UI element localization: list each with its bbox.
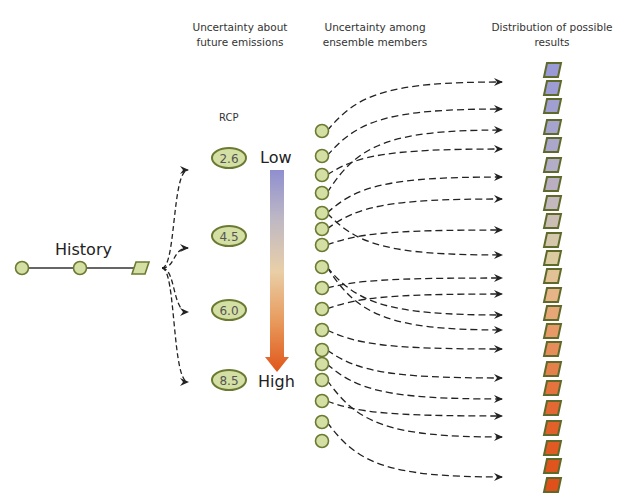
ensemble-member-node	[316, 187, 329, 200]
ensemble-member-node	[316, 358, 329, 371]
ensemble-arrow	[327, 109, 502, 156]
ensemble-member-node	[316, 169, 329, 182]
ensemble-arrow	[327, 267, 502, 330]
result-item	[544, 459, 561, 473]
ensemble-arrow	[327, 82, 502, 131]
result-item	[544, 342, 561, 356]
ensemble-arrow	[327, 213, 502, 255]
ensemble-arrow	[327, 267, 502, 315]
result-item	[544, 120, 561, 134]
result-item	[544, 401, 561, 415]
ensemble-arrow	[327, 422, 502, 477]
result-item	[544, 269, 561, 283]
result-item	[544, 362, 561, 376]
svg-text:2.6: 2.6	[219, 152, 238, 166]
result-item	[544, 324, 561, 338]
ensemble-member-node	[316, 125, 329, 138]
ensemble-arrow	[327, 177, 502, 213]
scenario-branch-arrow	[162, 170, 188, 268]
result-item	[544, 138, 561, 152]
result-item	[544, 214, 561, 228]
scenario-branch-arrow	[162, 268, 188, 382]
result-item	[544, 196, 561, 210]
result-item	[544, 81, 561, 95]
uncertainty-diagram: 2.64.56.08.5	[0, 0, 629, 504]
emission-scale-arrow	[265, 170, 289, 372]
ensemble-member-node	[316, 239, 329, 252]
result-item	[544, 99, 561, 113]
ensemble-member-node	[316, 303, 329, 316]
ensemble-member-node	[316, 395, 329, 408]
ensemble-arrow	[327, 330, 502, 349]
result-item	[544, 251, 561, 265]
ensemble-arrow	[327, 130, 502, 193]
ensemble-member-node	[316, 282, 329, 295]
svg-text:6.0: 6.0	[219, 304, 238, 318]
history-timeline	[16, 262, 150, 275]
result-item	[544, 288, 561, 302]
ensemble-arrow	[327, 350, 502, 378]
result-item	[544, 306, 561, 320]
ensemble-member-node	[316, 150, 329, 163]
result-item	[544, 478, 561, 492]
result-item	[544, 177, 561, 191]
ensemble-member-node	[316, 374, 329, 387]
ensemble-arrow	[327, 199, 502, 229]
result-item	[544, 421, 561, 435]
rcp-scenario-8.5: 8.5	[212, 370, 246, 390]
ensemble-arrow	[327, 364, 502, 399]
ensemble-arrow	[327, 380, 502, 437]
history-node	[16, 262, 29, 275]
ensemble-member-node	[316, 416, 329, 429]
result-item	[544, 63, 561, 77]
scenario-branch-arrow	[162, 268, 188, 312]
ensemble-arrows	[327, 82, 502, 477]
ensemble-member-node	[316, 223, 329, 236]
ensemble-arrow	[327, 294, 502, 309]
rcp-scenario-6.0: 6.0	[212, 300, 246, 320]
ensemble-member-node	[316, 324, 329, 337]
ensemble-member-node	[316, 344, 329, 357]
ensemble-arrow	[327, 230, 502, 245]
svg-text:8.5: 8.5	[219, 374, 238, 388]
result-item	[544, 158, 561, 172]
result-distribution	[544, 63, 561, 492]
ensemble-arrow	[327, 149, 502, 175]
result-item	[544, 233, 561, 247]
svg-text:4.5: 4.5	[219, 230, 238, 244]
ensemble-member-node	[316, 261, 329, 274]
ensemble-arrow	[327, 278, 502, 288]
rcp-scenarios: 2.64.56.08.5	[212, 148, 246, 390]
ensemble-members	[316, 125, 329, 448]
rcp-scenario-2.6: 2.6	[212, 148, 246, 168]
result-item	[544, 381, 561, 395]
ensemble-member-node	[316, 207, 329, 220]
history-present-node	[132, 262, 149, 274]
history-node	[74, 262, 87, 275]
result-item	[544, 441, 561, 455]
scenario-branch-arrow	[162, 248, 188, 268]
ensemble-member-node	[316, 435, 329, 448]
scenario-branches	[162, 170, 188, 382]
rcp-scenario-4.5: 4.5	[212, 226, 246, 246]
